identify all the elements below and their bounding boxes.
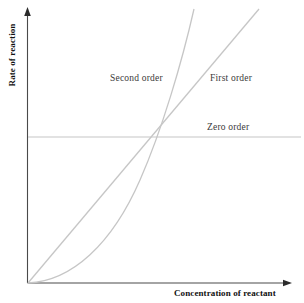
y-axis-arrow-icon — [24, 7, 31, 16]
chart-plot-area — [0, 0, 304, 303]
y-axis-title: Rate of reaction — [7, 3, 17, 107]
first-order-label: First order — [210, 73, 252, 83]
zero-order-label: Zero order — [207, 122, 249, 132]
first-order-curve — [28, 9, 259, 283]
x-axis-title: Concentration of reactant — [174, 288, 276, 298]
reaction-order-chart: Second order First order Zero order Rate… — [0, 0, 304, 303]
x-axis-arrow-icon — [283, 280, 292, 287]
second-order-label: Second order — [110, 73, 163, 83]
second-order-curve — [28, 9, 194, 283]
